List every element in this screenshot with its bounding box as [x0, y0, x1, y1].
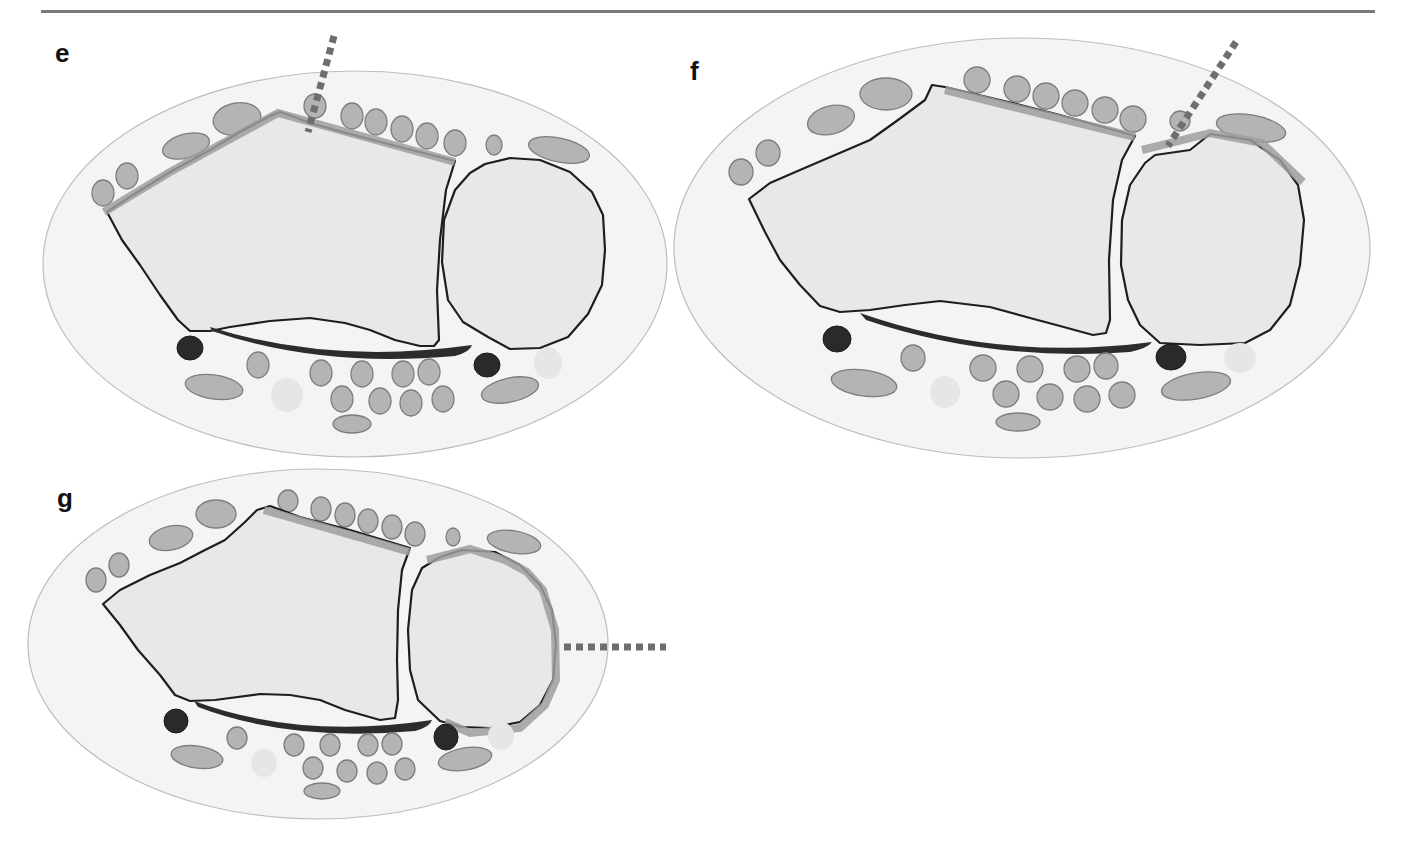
- muscle-icon: [304, 783, 340, 799]
- muscle-icon: [418, 359, 440, 385]
- muscle-icon: [860, 78, 912, 110]
- diagram-canvas: [0, 0, 1409, 857]
- muscle-icon: [86, 568, 106, 592]
- vessel-icon: [474, 353, 500, 377]
- muscle-icon: [196, 500, 236, 528]
- muscle-icon: [109, 553, 129, 577]
- muscle-icon: [333, 415, 371, 433]
- muscle-icon: [331, 386, 353, 412]
- muscle-icon: [1033, 83, 1059, 109]
- muscle-icon: [303, 757, 323, 779]
- muscle-icon: [1064, 356, 1090, 382]
- muscle-icon: [358, 509, 378, 533]
- muscle-icon: [1120, 106, 1146, 132]
- muscle-icon: [756, 140, 780, 166]
- muscle-icon: [1074, 386, 1100, 412]
- panel-e: [43, 36, 667, 457]
- muscle-icon: [432, 386, 454, 412]
- muscle-icon: [1094, 353, 1118, 379]
- muscle-icon: [405, 522, 425, 546]
- muscle-icon: [278, 490, 298, 512]
- vessel-icon: [434, 724, 458, 750]
- muscle-icon: [247, 352, 269, 378]
- muscle-icon: [382, 733, 402, 755]
- muscle-icon: [395, 758, 415, 780]
- ulna-bone: [1121, 134, 1304, 345]
- muscle-icon: [993, 381, 1019, 407]
- muscle-icon: [446, 528, 460, 546]
- vessel-icon: [164, 709, 188, 733]
- faint-structure-icon: [271, 378, 303, 412]
- muscle-icon: [444, 130, 466, 156]
- muscle-icon: [116, 163, 138, 189]
- muscle-icon: [369, 388, 391, 414]
- muscle-icon: [1109, 382, 1135, 408]
- muscle-icon: [337, 760, 357, 782]
- vessel-icon: [177, 336, 203, 360]
- faint-structure-icon: [251, 749, 277, 777]
- panel-g: [28, 469, 666, 819]
- muscle-icon: [358, 734, 378, 756]
- ulna-bone: [442, 158, 605, 349]
- muscle-icon: [341, 103, 363, 129]
- muscle-icon: [382, 515, 402, 539]
- panel-f: [674, 38, 1370, 458]
- muscle-icon: [392, 361, 414, 387]
- vessel-icon: [823, 326, 851, 352]
- muscle-icon: [400, 390, 422, 416]
- muscle-icon: [1004, 76, 1030, 102]
- faint-structure-icon: [1224, 343, 1256, 373]
- muscle-icon: [996, 413, 1040, 431]
- muscle-icon: [284, 734, 304, 756]
- muscle-icon: [365, 109, 387, 135]
- muscle-icon: [1037, 384, 1063, 410]
- muscle-icon: [970, 355, 996, 381]
- muscle-icon: [486, 135, 502, 155]
- faint-structure-icon: [488, 722, 514, 750]
- muscle-icon: [964, 67, 990, 93]
- muscle-icon: [367, 762, 387, 784]
- muscle-icon: [391, 116, 413, 142]
- muscle-icon: [1017, 356, 1043, 382]
- muscle-icon: [1092, 97, 1118, 123]
- muscle-icon: [335, 503, 355, 527]
- muscle-icon: [1062, 90, 1088, 116]
- muscle-icon: [320, 734, 340, 756]
- muscle-icon: [310, 360, 332, 386]
- muscle-icon: [92, 180, 114, 206]
- muscle-icon: [311, 497, 331, 521]
- muscle-icon: [351, 361, 373, 387]
- faint-structure-icon: [534, 347, 562, 379]
- muscle-icon: [227, 727, 247, 749]
- muscle-icon: [416, 123, 438, 149]
- vessel-icon: [1156, 344, 1186, 370]
- muscle-icon: [729, 159, 753, 185]
- muscle-icon: [901, 345, 925, 371]
- faint-structure-icon: [930, 376, 960, 408]
